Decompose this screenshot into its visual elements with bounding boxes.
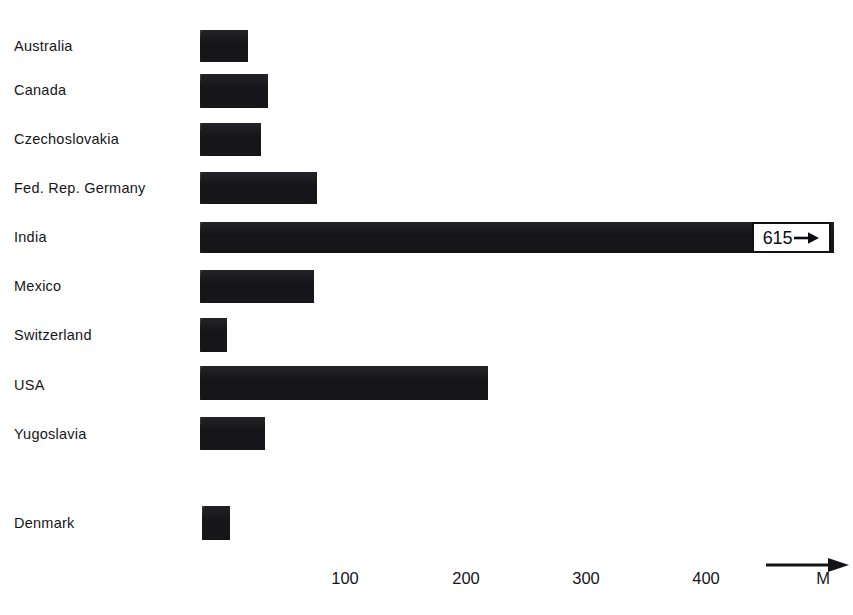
bar-fed-rep-germany — [200, 172, 317, 204]
xtick-label-100: 100 — [331, 570, 359, 587]
category-label-czechoslovakia: Czechoslovakia — [14, 132, 119, 147]
india-value-label: 615 — [763, 229, 792, 247]
bar-usa — [200, 366, 488, 400]
category-label-fed-rep-germany: Fed. Rep. Germany — [14, 181, 146, 196]
xtick-label-200: 200 — [452, 570, 480, 587]
bar-switzerland — [200, 318, 227, 352]
arrow-right-icon — [794, 231, 820, 245]
bar-india — [200, 222, 834, 253]
bar-mexico — [200, 270, 314, 303]
bar-australia — [200, 30, 248, 62]
bar-yugoslavia — [200, 417, 265, 450]
category-label-canada: Canada — [14, 83, 66, 98]
category-label-australia: Australia — [14, 39, 73, 54]
category-label-india: India — [14, 230, 47, 245]
bar-denmark — [202, 506, 230, 540]
category-label-denmark: Denmark — [14, 516, 75, 531]
india-value-callout: 615 — [752, 222, 831, 253]
chart-title — [0, 0, 853, 2]
axis-arrow-right-icon — [766, 556, 850, 574]
category-label-usa: USA — [14, 378, 45, 393]
category-label-switzerland: Switzerland — [14, 328, 92, 343]
xtick-label-400: 400 — [692, 570, 720, 587]
bar-canada — [200, 74, 268, 108]
bar-czechoslovakia — [200, 123, 261, 156]
bar-chart: Australia Canada Czechoslovakia Fed. Rep… — [0, 0, 853, 615]
category-label-yugoslavia: Yugoslavia — [14, 427, 87, 442]
xtick-label-300: 300 — [572, 570, 600, 587]
category-label-mexico: Mexico — [14, 279, 61, 294]
